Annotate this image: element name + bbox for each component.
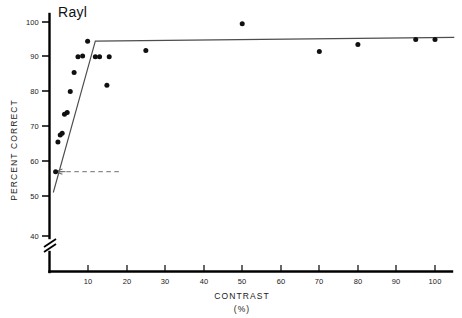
plot-area [53,21,454,192]
x-tick-label: 10 [84,277,93,286]
y-tick-label: 80 [30,87,39,96]
x-tick-label: 70 [315,277,324,286]
data-point [53,169,58,174]
data-point [107,54,112,59]
data-point [413,37,418,42]
x-tick-label: 40 [200,277,209,286]
data-point [65,110,70,115]
data-point [240,21,245,26]
figure-panel: Rayl 100 90 80 70 60 50 40 PERCENT CORRE… [0,0,462,318]
chart-svg: Rayl 100 90 80 70 60 50 40 PERCENT CORRE… [0,0,462,318]
x-tick-label: 50 [238,277,247,286]
data-point [80,54,85,59]
y-tick-label: 70 [30,122,39,131]
y-axis: 100 90 80 70 60 50 40 PERCENT CORRECT [9,14,56,272]
y-tick-label: 50 [30,192,39,201]
y-axis-title: PERCENT CORRECT [9,99,19,200]
data-point [317,49,322,54]
x-tick-label: 60 [277,277,286,286]
x-tick-label: 30 [161,277,170,286]
x-tick-label: 90 [392,277,401,286]
x-tick-label: 80 [354,277,363,286]
data-point [72,70,77,75]
data-point [85,39,90,44]
data-point [68,89,73,94]
data-point [355,42,360,47]
y-tick-label: 40 [30,232,39,241]
data-point [104,83,109,88]
data-point [60,131,65,136]
data-point [75,54,80,59]
x-tick-label: 20 [123,277,132,286]
data-point [433,37,438,42]
data-point [97,54,102,59]
x-axis: 10 20 30 40 50 60 70 80 90 100 CONTRAST … [50,265,453,314]
x-axis-title: CONTRAST [214,291,270,301]
data-point [55,140,60,145]
page-title: Rayl [58,4,87,20]
y-tick-label: 100 [26,18,39,27]
x-axis-units: (%) [234,304,251,314]
data-point [143,48,148,53]
fitted-curve [53,37,454,192]
x-tick-label: 100 [428,277,441,286]
y-tick-label: 60 [30,157,39,166]
y-tick-label: 90 [30,52,39,61]
